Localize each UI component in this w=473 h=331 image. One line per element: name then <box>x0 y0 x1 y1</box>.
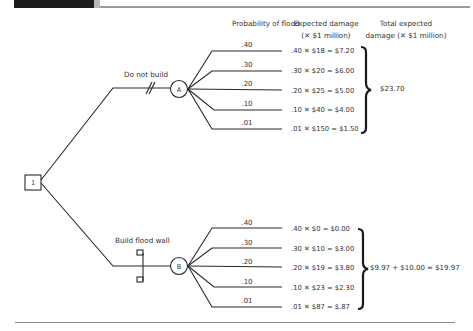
decision-node-label: 1 <box>31 179 35 187</box>
calc-a-3: .20 ✕ $25 = $5.00 <box>291 87 354 95</box>
calc-b-5: .01 ✕ $87 = $.87 <box>291 303 350 311</box>
prob-a-1: .40 <box>237 41 257 49</box>
chance-node-a-label: A <box>177 86 182 94</box>
prob-b-3: .20 <box>237 258 257 266</box>
calc-a-5: .01 ✕ $150 = $1.50 <box>291 125 359 133</box>
prob-b-1: .40 <box>237 219 257 227</box>
prob-a-5: .01 <box>237 119 257 127</box>
branch-label-do-not-build: Do not build <box>124 70 168 79</box>
footer-rule <box>15 322 455 323</box>
chance-node-b-label: B <box>177 263 181 271</box>
calc-b-4: .10 ✕ $23 = $2.30 <box>291 284 354 292</box>
calc-b-2: .30 ✕ $10 = $3.00 <box>291 245 354 253</box>
brace-b <box>358 229 368 309</box>
total-a: $23.70 <box>380 85 405 93</box>
prob-a-2: .30 <box>237 61 257 69</box>
calc-b-3: .20 ✕ $19 = $3.80 <box>291 264 354 272</box>
calc-a-1: .40 ✕ $18 = $7.20 <box>291 47 354 55</box>
branch-label-build-flood-wall: Build flood wall <box>115 236 170 245</box>
prob-b-5: .01 <box>237 297 257 305</box>
prob-a-3: .20 <box>237 80 257 88</box>
total-b: $9.97 + $10.00 = $19.97 <box>370 264 460 272</box>
calc-b-1: .40 ✕ $0 = $0.00 <box>291 225 350 233</box>
calc-a-4: .10 ✕ $40 = $4.00 <box>291 106 354 114</box>
prob-a-4: .10 <box>237 100 257 108</box>
prob-b-2: .30 <box>237 239 257 247</box>
prob-b-4: .10 <box>237 278 257 286</box>
calc-a-2: .30 ✕ $20 = $6.00 <box>291 67 354 75</box>
brace-a <box>361 47 371 133</box>
